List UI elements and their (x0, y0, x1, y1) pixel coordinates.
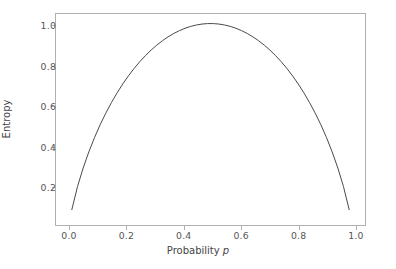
xtick-mark (69, 226, 70, 230)
xtick-label-5: 1.0 (348, 230, 363, 241)
ytick-label-2: 0.6 (41, 101, 56, 112)
x-axis-label: Probability p (0, 245, 396, 256)
xtick-label-4: 0.8 (291, 230, 306, 241)
x-axis-label-prefix: Probability (167, 245, 223, 256)
xtick-mark (356, 226, 357, 230)
xtick-label-0: 0.0 (61, 230, 76, 241)
ytick-label-1: 0.4 (41, 141, 56, 152)
xtick-label-1: 0.2 (119, 230, 134, 241)
y-axis-label: Entropy (1, 100, 12, 139)
ytick-label-0: 0.2 (41, 182, 56, 193)
xtick-mark (126, 226, 127, 230)
xtick-mark (241, 226, 242, 230)
ytick-label-4: 1.0 (41, 20, 56, 31)
plot-area (55, 13, 366, 226)
xtick-mark (184, 226, 185, 230)
x-axis-label-symbol: p (223, 245, 229, 256)
entropy-curve (72, 24, 349, 210)
xtick-label-2: 0.4 (176, 230, 191, 241)
ytick-label-3: 0.8 (41, 60, 56, 71)
xtick-mark (299, 226, 300, 230)
xtick-label-3: 0.6 (233, 230, 248, 241)
entropy-chart-figure: 0.0 0.2 0.4 0.6 0.8 1.0 0.2 0.4 0.6 0.8 … (0, 0, 396, 269)
